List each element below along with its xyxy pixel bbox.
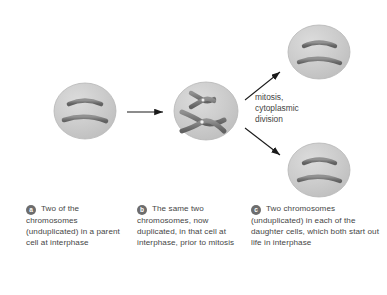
process-label-line1: mitosis, [255,92,283,102]
daughter-cell-top [288,25,350,79]
caption-c-text: Two chromosomes (unduplicated) in each o… [251,204,379,247]
cell-membrane-daughter-bottom [288,143,350,197]
caption-b: bThe same two chromosomes, now duplicate… [137,203,243,249]
caption-a-text: Two of the chromosomes (unduplicated) in… [26,204,120,247]
caption-c: cTwo chromosomes (unduplicated) in each … [251,203,383,249]
caption-b-text: The same two chromosomes, now duplicated… [137,204,234,247]
process-label-line2: cytoplasmic [255,103,299,113]
caption-a: aTwo of the chromosomes (unduplicated) i… [26,203,130,249]
process-label: mitosis, cytoplasmic division [255,92,299,124]
centromere-small [202,99,205,102]
centromere-large [200,120,203,123]
parent-cell [54,83,116,139]
caption-marker-a: a [26,205,36,215]
process-label-line3: division [255,114,283,124]
caption-marker-b: b [137,205,147,215]
caption-row: aTwo of the chromosomes (unduplicated) i… [0,203,387,295]
cell-membrane-parent [54,83,116,139]
daughter-cell-bottom [288,143,350,197]
mitosis-diagram: mitosis, cytoplasmic division [0,0,387,200]
arrow-mitosis-down [245,128,280,155]
caption-marker-c: c [251,205,261,215]
duplicated-cell [174,82,238,140]
cell-membrane-daughter-top [288,25,350,79]
figure-container: mitosis, cytoplasmic division aTwo of th… [0,0,387,295]
